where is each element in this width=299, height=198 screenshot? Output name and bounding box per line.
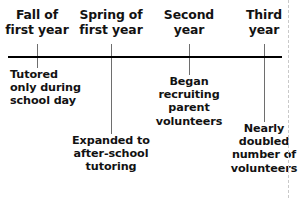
event-note-tutored-school-day: Tutored only during school day	[10, 68, 94, 108]
event-note-line: parent	[145, 101, 233, 114]
event-note-line: Tutored	[10, 68, 94, 81]
period-label-line1: Second	[152, 8, 226, 23]
connector-recruiting-parent-volunteers	[189, 58, 190, 75]
period-label-line2: year	[152, 23, 226, 38]
page-edge-guide	[288, 0, 289, 198]
period-label-line1: Fall of	[0, 8, 74, 23]
period-label-fall-first-year: Fall of first year	[0, 8, 74, 37]
connector-doubled-volunteers	[264, 58, 265, 122]
period-label-line2: first year	[72, 23, 150, 38]
event-note-line: only during	[10, 81, 94, 94]
event-note-line: after-school	[64, 147, 158, 160]
timeline-axis	[8, 56, 282, 58]
event-note-recruiting-parent-volunteers: Began recruiting parent volunteers	[145, 75, 233, 128]
connector-tutored-school-day	[37, 58, 38, 68]
event-note-line: recruiting	[145, 88, 233, 101]
event-note-line: volunteers	[145, 115, 233, 128]
period-label-second-year: Second year	[152, 8, 226, 37]
event-note-expanded-after-school: Expanded to after-school tutoring	[64, 134, 158, 174]
period-label-line2: first year	[0, 23, 74, 38]
period-label-line1: Spring of	[72, 8, 150, 23]
event-note-line: Expanded to	[64, 134, 158, 147]
timeline-figure: Fall of first year Spring of first year …	[0, 0, 299, 198]
event-note-line: tutoring	[64, 160, 158, 173]
event-note-line: Began	[145, 75, 233, 88]
connector-expanded-after-school	[111, 58, 112, 134]
event-note-line: school day	[10, 94, 94, 107]
period-label-spring-first-year: Spring of first year	[72, 8, 150, 37]
